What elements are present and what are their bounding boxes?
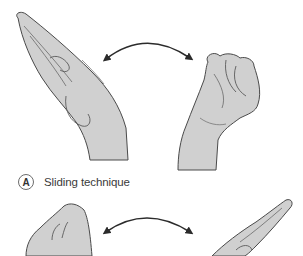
double-headed-arrow-icon [106, 218, 190, 232]
panel-label: A [22, 177, 29, 188]
open-hand-icon [17, 12, 128, 160]
panel-label-badge: A [18, 174, 34, 190]
figure-sliding-technique: A Sliding technique [0, 0, 303, 256]
double-headed-arrow-icon [106, 43, 190, 59]
fist-icon [178, 54, 260, 170]
open-hand-icon [212, 200, 292, 256]
caption-text: Sliding technique [44, 176, 130, 188]
hand-illustration [0, 0, 303, 256]
fist-icon [26, 204, 92, 256]
figure-caption: A Sliding technique [18, 174, 130, 190]
